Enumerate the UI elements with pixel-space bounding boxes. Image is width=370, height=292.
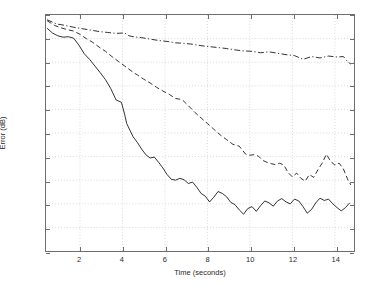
x-axis-label: Time (seconds) [174,268,225,277]
x-tick-mark [294,247,295,251]
y-tick-mark [46,63,50,64]
x-tick-mark [80,247,81,251]
x-tick-mark [337,247,338,251]
y-tick-mark [46,253,50,254]
y-tick-mark [46,86,50,87]
y-tick-mark [46,229,50,230]
chart-figure: Error (dB) Time (seconds) -10-5051015202… [0,0,370,292]
series-line-solid [47,28,350,214]
y-axis-label: Error (dB) [0,117,7,150]
y-tick-mark [46,15,50,16]
x-tick-label: 6 [163,255,167,264]
x-tick-label: 14 [332,255,340,264]
x-tick-mark [123,247,124,251]
x-tick-label: 2 [77,255,81,264]
x-tick-label: 8 [205,255,209,264]
x-tick-mark [208,15,209,19]
x-tick-label: 10 [246,255,254,264]
x-tick-label: 4 [120,255,124,264]
x-tick-mark [80,15,81,19]
y-tick-mark [350,205,354,206]
plot-area [45,14,355,252]
y-tick-mark [46,205,50,206]
y-axis-label-wrapper: Error (dB) [0,0,42,292]
y-tick-mark [46,134,50,135]
x-tick-mark [208,247,209,251]
y-tick-mark [46,182,50,183]
y-tick-mark [350,63,354,64]
x-tick-mark [166,247,167,251]
y-tick-mark [350,39,354,40]
data-series-group [46,15,354,251]
x-tick-mark [251,247,252,251]
y-tick-mark [46,158,50,159]
y-tick-mark [350,229,354,230]
y-tick-mark [350,253,354,254]
y-tick-mark [350,182,354,183]
x-tick-mark [123,15,124,19]
x-tick-mark [337,15,338,19]
y-tick-mark [350,158,354,159]
y-tick-mark [46,110,50,111]
x-tick-mark [166,15,167,19]
y-tick-mark [350,110,354,111]
y-tick-mark [46,39,50,40]
x-tick-label: 12 [289,255,297,264]
x-tick-mark [251,15,252,19]
y-tick-mark [350,15,354,16]
x-tick-mark [294,15,295,19]
y-tick-mark [350,134,354,135]
y-tick-mark [350,86,354,87]
